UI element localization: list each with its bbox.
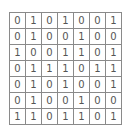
grid-cell: 0	[74, 77, 90, 93]
grid-cell: 0	[42, 109, 58, 125]
grid-cell: 1	[74, 45, 90, 61]
grid-row: 0101001	[10, 77, 122, 93]
grid-cell: 1	[90, 61, 106, 77]
grid-cell: 1	[10, 45, 26, 61]
grid-body: 0101001010010010011010111011010100101001…	[10, 13, 122, 125]
grid-cell: 0	[106, 29, 122, 45]
grid-row: 0111011	[10, 61, 122, 77]
grid-cell: 0	[10, 61, 26, 77]
grid-cell: 0	[90, 77, 106, 93]
grid-cell: 1	[10, 109, 26, 125]
grid-cell: 1	[26, 29, 42, 45]
grid-cell: 0	[42, 45, 58, 61]
grid-cell: 0	[26, 45, 42, 61]
grid-cell: 1	[58, 77, 74, 93]
grid-row: 1001101	[10, 45, 122, 61]
grid-cell: 0	[90, 45, 106, 61]
grid-cell: 0	[58, 29, 74, 45]
grid-cell: 1	[26, 109, 42, 125]
grid-cell: 1	[106, 13, 122, 29]
grid-cell: 0	[10, 77, 26, 93]
grid-cell: 0	[10, 29, 26, 45]
grid-cell: 1	[58, 61, 74, 77]
grid-cell: 0	[42, 93, 58, 109]
grid-cell: 0	[74, 13, 90, 29]
grid-cell: 1	[58, 109, 74, 125]
grid-cell: 1	[106, 45, 122, 61]
grid-cell: 1	[26, 93, 42, 109]
grid-cell: 0	[106, 93, 122, 109]
grid-cell: 0	[74, 61, 90, 77]
grid-cell: 1	[58, 13, 74, 29]
grid-row: 0101001	[10, 13, 122, 29]
grid-cell: 0	[90, 13, 106, 29]
grid-cell: 0	[10, 13, 26, 29]
grid-cell: 1	[74, 93, 90, 109]
grid-cell: 0	[42, 77, 58, 93]
grid-cell: 0	[90, 109, 106, 125]
grid-cell: 1	[74, 29, 90, 45]
grid-cell: 0	[10, 93, 26, 109]
grid-row: 1101101	[10, 109, 122, 125]
grid-cell: 0	[58, 93, 74, 109]
grid-cell: 1	[26, 77, 42, 93]
grid-cell: 0	[90, 29, 106, 45]
grid-cell: 1	[106, 77, 122, 93]
binary-grid: 0101001010010010011010111011010100101001…	[9, 12, 122, 125]
grid-cell: 1	[106, 109, 122, 125]
grid-cell: 1	[26, 61, 42, 77]
grid-cell: 1	[26, 13, 42, 29]
grid-cell: 1	[106, 61, 122, 77]
grid-row: 0100100	[10, 29, 122, 45]
grid-cell: 0	[90, 93, 106, 109]
grid-cell: 1	[58, 45, 74, 61]
grid-cell: 1	[74, 109, 90, 125]
grid-row: 0100100	[10, 93, 122, 109]
grid-cell: 0	[42, 29, 58, 45]
grid-cell: 1	[42, 61, 58, 77]
grid-cell: 0	[42, 13, 58, 29]
